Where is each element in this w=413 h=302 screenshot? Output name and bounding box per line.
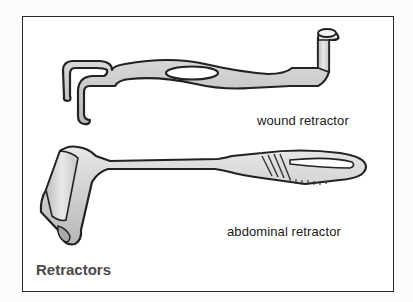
wound-retractor-illustration [63, 29, 338, 124]
retractors-illustration [0, 0, 413, 302]
wound-retractor-label: wound retractor [257, 113, 349, 128]
abdominal-retractor-label: abdominal retractor [227, 224, 341, 239]
figure-title: Retractors [36, 261, 111, 278]
